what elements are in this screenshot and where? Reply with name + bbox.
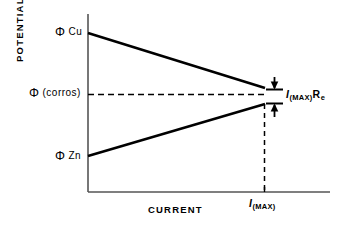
ohmic-drop-label: I(MAX)Re [286,89,325,102]
y-axis-title: POTENTIAL [14,0,25,62]
phi-symbol-zn: Φ [55,149,68,163]
phi-zn-label: ΦZn [55,150,81,163]
zn-polarization-curve [88,104,265,156]
phi-zn-text: Zn [68,150,81,161]
cu-polarization-curve [88,33,265,88]
ohmic-arrow-up-head [271,104,279,112]
ohmic-drop-resistance-subscript: e [321,93,325,102]
phi-cu-text: Cu [68,26,82,37]
ohmic-arrow-down-head [271,82,279,90]
imax-current-subscript: (MAX) [252,202,275,211]
phi-corros-label: Φ(corros) [29,87,81,100]
x-axis-title: CURRENT [148,205,203,215]
polarization-plot [0,0,348,232]
evans-diagram-figure: POTENTIAL CURRENT ΦCu Φ(corros) ΦZn I(MA… [0,0,348,232]
phi-symbol-corros: Φ [29,86,42,100]
imax-tick-label: I(MAX) [249,198,276,211]
phi-corros-text: (corros) [42,87,80,98]
phi-symbol-cu: Φ [55,25,68,39]
ohmic-drop-resistance-symbol: R [313,88,321,100]
phi-cu-label: ΦCu [55,26,82,39]
ohmic-drop-current-subscript: (MAX) [289,93,312,102]
